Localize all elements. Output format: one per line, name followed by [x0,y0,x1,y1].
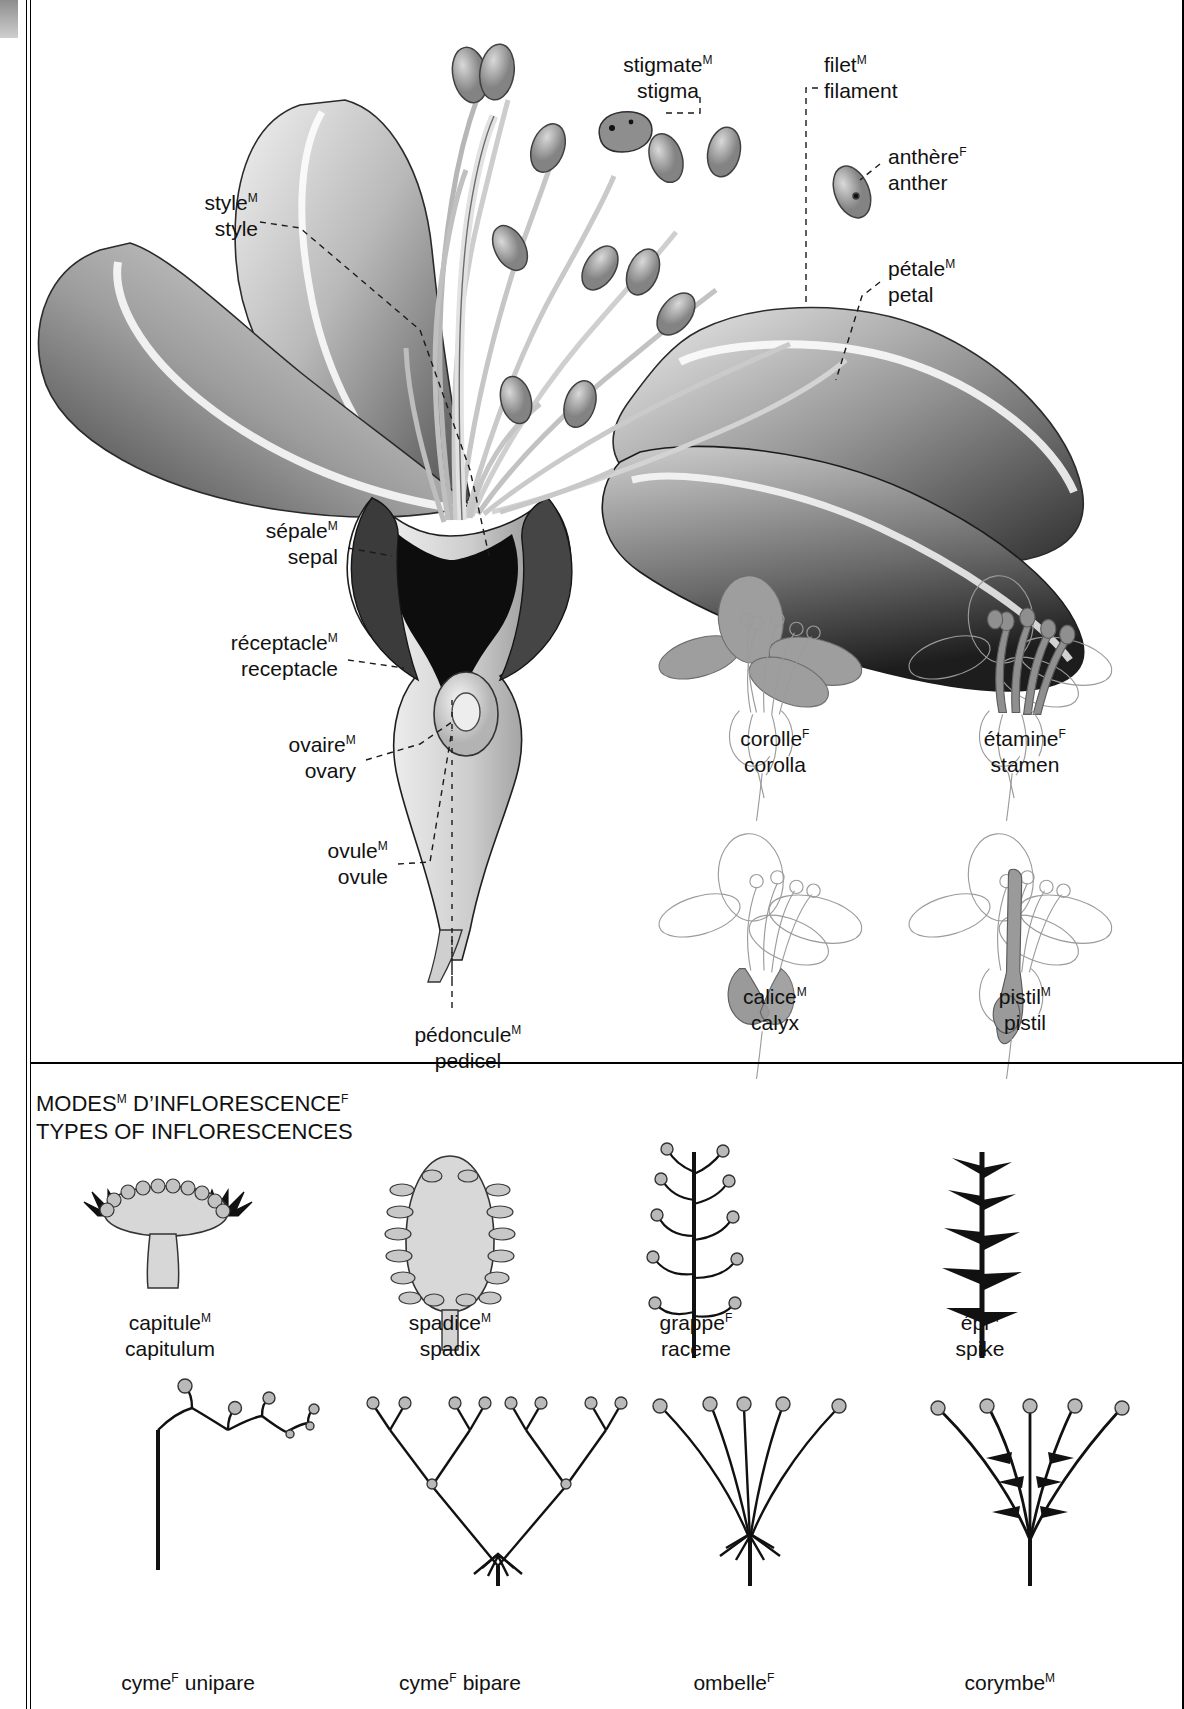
petal-left [39,243,470,517]
caption-umbel: ombelleF [614,1670,854,1696]
caption-cyme-unipare: cymeF unipare [68,1670,308,1696]
stamen-highlight [988,608,1075,714]
corolla-outline [730,613,821,821]
detail-figure-pistil [904,831,1117,1079]
inflorescence-umbel [653,1397,846,1586]
label-ovule: ovuleM ovule [228,838,388,889]
label-receptacle: réceptacleM receptacle [108,630,338,681]
label-anther: anthèreF anther [888,144,967,195]
caption-pistil: pistilM pistil [905,984,1145,1035]
petal-upper-left [235,100,470,506]
section-divider [31,1062,1182,1064]
label-petal: pétaleM petal [888,256,956,307]
inflorescence-corymb [931,1399,1129,1586]
calyx-outline [654,831,867,1079]
detail-figure-stamen [904,573,1117,821]
stamen-petals-outline [904,573,1117,718]
detail-figure-calyx [654,831,867,1079]
left-spine: VEGETABLE KINGDOM [0,0,24,1709]
caption-stamen: étamineF stamen [905,726,1145,777]
caption-spadix: spadiceM spadix [330,1310,570,1361]
illustration-layer [0,0,1184,1709]
caption-capitulum: capituleM capitulum [50,1310,290,1361]
inflorescence-section-heading: MODESM D’INFLORESCENCEF TYPES OF INFLORE… [36,1090,353,1146]
anther-labeled [826,161,878,224]
page-root: VEGETABLE KINGDOM [0,0,1184,1709]
petal-right [613,308,1083,563]
inflorescence-cyme-unipare [158,1379,319,1570]
spine-tab [0,0,18,38]
label-sepal: sépaleM sepal [168,518,338,569]
caption-corolla: corolleF corolla [655,726,895,777]
label-filament: filetM filament [824,52,898,103]
frame-border-left-inner [30,0,31,1709]
caption-cyme-bipare: cymeF bipare [340,1670,580,1696]
receptacle-cutaway [347,498,572,982]
caption-spike: épiM spike [860,1310,1100,1361]
style-shape [459,116,494,520]
caption-calyx: caliceM calyx [655,984,895,1035]
label-ovary: ovaireM ovary [186,732,356,783]
ovule-shape [452,693,480,731]
stigma-shape [599,112,652,152]
petal-front-right [602,446,1083,691]
label-pedicel: pédonculeM pedicel [378,1022,558,1073]
detail-figure-corolla [654,573,867,821]
corolla-petals-highlight [654,573,867,718]
label-stigma: stigmateM stigma [603,52,733,103]
inflorescence-cyme-bipare [367,1397,627,1586]
label-style: styleM style [118,190,258,241]
stamen-group [406,96,846,522]
inflorescence-capitulum [84,1179,252,1288]
frame-border-left [26,0,27,1709]
caption-corymb: corymbeM [890,1670,1130,1696]
caption-raceme: grappeF raceme [576,1310,816,1361]
